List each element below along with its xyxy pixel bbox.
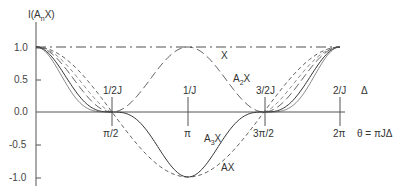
y-tick-label: -0.5: [9, 140, 26, 150]
y-axis-label-text: I(A: [28, 9, 41, 20]
x-tick-label: 3π/2: [253, 129, 274, 139]
y-tick-label: -1.0: [9, 173, 26, 183]
curve-label-a3x-end: X: [215, 133, 222, 144]
chart-canvas: [0, 0, 406, 196]
x-tick-label: π: [184, 129, 191, 139]
y-tick-label: 1.0: [14, 43, 28, 53]
top-tick-label: 3/2J: [256, 86, 275, 96]
y-ticks: [36, 48, 41, 178]
x-tick-label: π/2: [103, 129, 118, 139]
x-axis-label: θ = πJΔ: [357, 129, 393, 139]
y-tick-label: 0.5: [14, 75, 28, 85]
curve-label-x: X: [221, 51, 228, 61]
curve-label-a3x-main: A: [204, 133, 211, 144]
top-tick-label: 2/J: [333, 86, 346, 96]
top-tick-label: 1/2J: [103, 86, 122, 96]
y-axis-label: I(AnX): [28, 10, 55, 22]
curve-label-a3x: A3X: [204, 134, 221, 146]
delta-label: Δ: [361, 86, 368, 96]
x-tick-label: 2π: [333, 129, 345, 139]
y-tick-label: 0.0: [14, 107, 28, 117]
y-axis-label-end: X): [45, 9, 55, 20]
curve-label-ax: AX: [221, 163, 234, 173]
top-tick-label: 1/J: [183, 86, 196, 96]
curve-label-a2x-main: A: [233, 73, 240, 84]
curve-label-a2x: A2X: [233, 74, 250, 86]
curve-label-a2x-end: X: [244, 73, 251, 84]
